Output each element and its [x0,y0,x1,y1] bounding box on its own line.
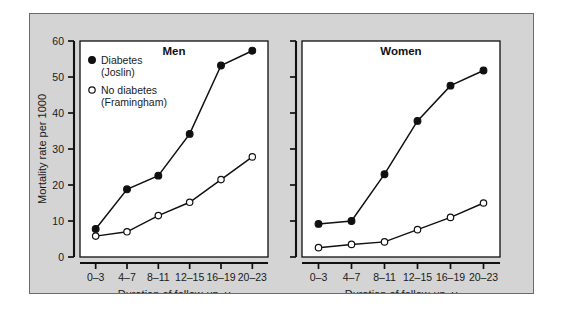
data-point-women-1-1 [348,241,354,247]
x-tick-label-men-0: 0–3 [87,271,105,283]
x-tick-label-women-2: 8–11 [373,271,396,283]
panel-men: 01020304050600–34–78–1112–1516–1920–23Du… [52,35,268,293]
panel-women: 0–34–78–1112–1516–1920–23Duration of fol… [290,41,500,293]
x-tick-label-women-5: 20–23 [469,271,498,283]
x-tick-label-women-4: 16–19 [436,271,465,283]
x-tick-label-women-3: 12–15 [403,271,432,283]
data-point-men-1-3 [186,199,192,205]
x-tick-label-women-1: 4–7 [343,271,361,283]
legend-marker-filled-circle [89,57,96,64]
y-tick-label-30: 30 [52,143,64,155]
data-point-women-0-5 [480,67,487,74]
x-axis-title-men: Duration of follow-up, y [118,288,231,293]
data-point-men-1-5 [249,154,255,160]
y-tick-label-60: 60 [52,35,64,47]
data-point-men-0-2 [155,172,162,179]
data-point-women-0-0 [315,220,322,227]
data-point-women-0-3 [414,118,421,125]
data-point-women-1-5 [480,200,486,206]
legend-marker-open-circle [89,87,95,93]
figure-panel: 01020304050600–34–78–1112–1516–1920–23Du… [29,13,534,294]
x-tick-label-men-3: 12–15 [175,271,204,283]
x-tick-label-men-1: 4–7 [118,271,136,283]
x-axis-title-women: Duration of follow-up, y [345,288,458,293]
data-point-men-0-5 [249,47,256,54]
y-axis-title: Mortality rate per 1000 [36,94,48,204]
data-point-women-1-0 [315,244,321,250]
x-tick-label-men-2: 8–11 [147,271,170,283]
data-point-women-0-1 [348,218,355,225]
data-point-women-1-2 [381,239,387,245]
data-point-women-1-3 [414,226,420,232]
data-point-men-0-4 [218,62,225,69]
data-point-men-0-0 [92,226,99,233]
panel-title-women: Women [380,45,421,57]
data-point-men-1-1 [124,229,130,235]
legend-label-1-line1: No diabetes [101,84,157,96]
data-point-women-0-2 [381,171,388,178]
panel-title-men: Men [163,45,186,57]
y-tick-label-50: 50 [52,71,64,83]
y-tick-label-40: 40 [52,107,64,119]
y-tick-label-0: 0 [58,251,64,263]
data-point-men-1-0 [92,233,98,239]
data-point-women-0-4 [447,82,454,89]
data-point-women-1-4 [447,214,453,220]
plot-area-women [302,41,500,257]
x-tick-label-men-4: 16–19 [206,271,235,283]
y-tick-label-20: 20 [52,179,64,191]
data-point-men-1-2 [155,212,161,218]
legend-label-0-line2: (Joslin) [101,66,135,78]
data-point-men-1-4 [218,176,224,182]
legend-label-0-line1: Diabetes [101,54,142,66]
x-tick-label-men-5: 20–23 [238,271,267,283]
x-tick-label-women-0: 0–3 [310,271,328,283]
data-point-men-0-1 [124,186,131,193]
chart-canvas: 01020304050600–34–78–1112–1516–1920–23Du… [30,14,533,293]
data-point-men-0-3 [186,130,193,137]
y-tick-label-10: 10 [52,215,64,227]
legend-label-1-line2: (Framingham) [101,96,167,108]
